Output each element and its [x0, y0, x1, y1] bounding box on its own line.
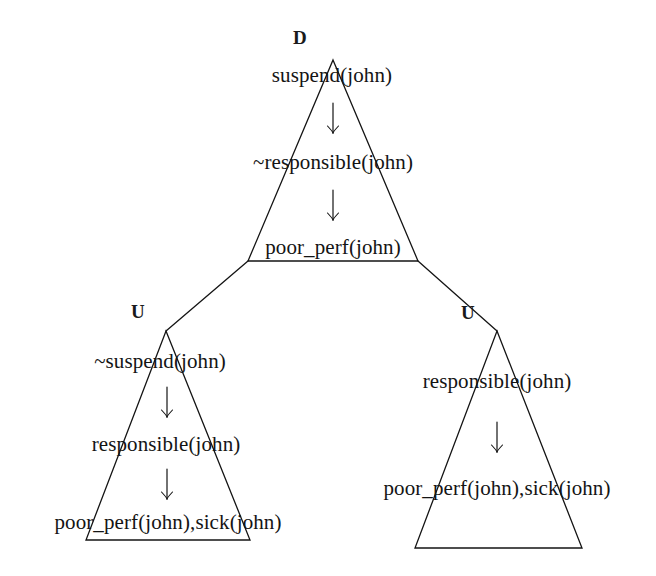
formula-right-line-2: poor_perf(john),sick(john): [383, 476, 610, 501]
branch-root-to-left: [166, 261, 248, 331]
derivation-arrow-root-2: [328, 190, 339, 220]
triangle-right-undercutter: [415, 331, 582, 548]
triangle-label-root: D: [293, 27, 307, 49]
formula-left-line-3: poor_perf(john),sick(john): [54, 510, 281, 535]
derivation-arrow-left-undercutter-2: [162, 469, 173, 499]
triangle-label-right-undercutter: U: [461, 302, 475, 324]
derivation-arrow-right-undercutter-1: [492, 422, 503, 452]
formula-left-line-1: ~suspend(john): [94, 349, 226, 374]
derivation-arrow-root-1: [328, 103, 339, 133]
formula-root-line-2: ~responsible(john): [253, 150, 413, 175]
formula-root-line-1: suspend(john): [272, 63, 392, 88]
diagram-canvas: D suspend(john) ~responsible(john) poor_…: [0, 0, 656, 576]
triangle-label-left-undercutter: U: [131, 301, 145, 323]
formula-root-line-3: poor_perf(john): [265, 235, 401, 260]
formula-left-line-2: responsible(john): [92, 432, 241, 457]
formula-right-line-1: responsible(john): [423, 369, 572, 394]
branch-root-to-right: [418, 261, 497, 331]
derivation-arrow-left-undercutter-1: [162, 387, 173, 417]
branch-lines: [166, 261, 497, 331]
